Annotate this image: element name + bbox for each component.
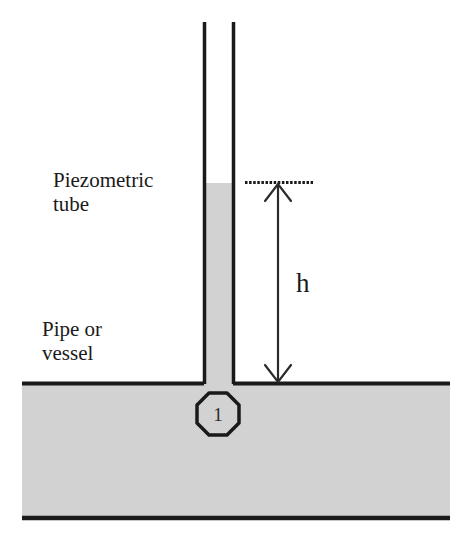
node-label: 1: [213, 404, 223, 425]
vessel-label-line2: vessel: [42, 341, 93, 365]
piezometric-tube-annotation: Piezometric tube: [53, 168, 153, 216]
piezometric-label-line1: Piezometric: [53, 168, 153, 192]
measurement-point-node: 1: [197, 393, 239, 435]
height-symbol-label: h: [296, 268, 310, 298]
tube-fluid-column: [206, 183, 232, 384]
figure-canvas: 1 h Piezometric tube Pipe or vessel: [0, 0, 472, 552]
vessel-label-line1: Pipe or: [42, 317, 102, 341]
pipe-vessel-annotation: Pipe or vessel: [42, 317, 102, 365]
piezometric-tube-diagram: 1 h Piezometric tube Pipe or vessel: [0, 0, 472, 552]
piezometric-label-line2: tube: [53, 192, 89, 216]
height-dimension-group: h: [265, 184, 310, 382]
